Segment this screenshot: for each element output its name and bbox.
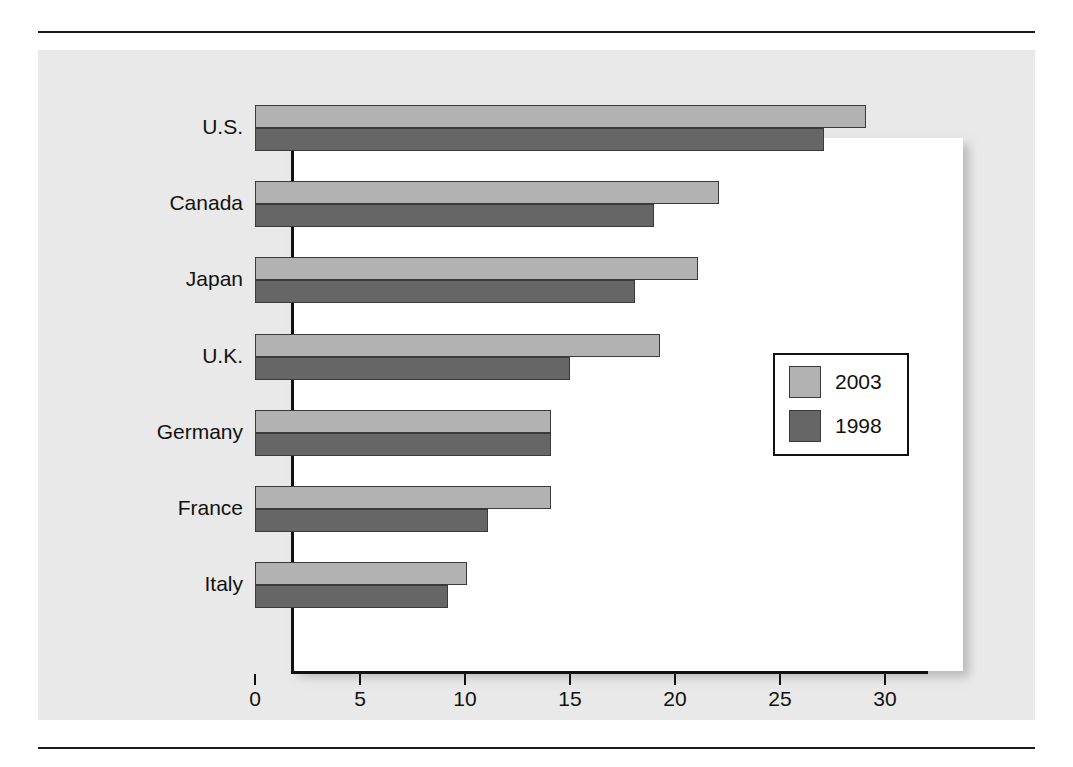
legend-swatch-1998 (789, 410, 821, 442)
bar-france-2003 (255, 486, 551, 509)
legend-label-1998: 1998 (835, 414, 882, 438)
bar-germany-1998 (255, 433, 551, 456)
bar-u-s-1998 (255, 128, 824, 151)
bar-canada-1998 (255, 204, 654, 227)
bar-japan-1998 (255, 280, 635, 303)
bar-france-1998 (255, 509, 488, 532)
bar-u-k-2003 (255, 334, 660, 357)
x-tick-label-5: 5 (340, 687, 380, 711)
bar-u-k-1998 (255, 357, 570, 380)
x-tick-5 (359, 674, 361, 685)
x-tick-25 (779, 674, 781, 685)
category-label-u-s: U.S. (43, 115, 243, 139)
category-label-italy: Italy (43, 572, 243, 596)
x-tick-30 (884, 674, 886, 685)
bar-germany-2003 (255, 410, 551, 433)
bar-italy-1998 (255, 585, 448, 608)
category-label-japan: Japan (43, 267, 243, 291)
x-tick-label-10: 10 (445, 687, 485, 711)
figure-container: 051015202530 U.S.CanadaJapanU.K.GermanyF… (0, 0, 1073, 767)
category-label-germany: Germany (43, 420, 243, 444)
category-label-u-k: U.K. (43, 344, 243, 368)
x-tick-10 (464, 674, 466, 685)
bar-u-s-2003 (255, 105, 866, 128)
bar-canada-2003 (255, 181, 719, 204)
legend-label-2003: 2003 (835, 370, 882, 394)
x-tick-15 (569, 674, 571, 685)
x-tick-label-30: 30 (865, 687, 905, 711)
top-divider-rule (38, 31, 1035, 33)
x-tick-label-0: 0 (235, 687, 275, 711)
x-tick-label-20: 20 (655, 687, 695, 711)
legend-item-1998: 1998 (789, 410, 882, 442)
chart-legend: 2003 1998 (773, 353, 909, 456)
bottom-divider-rule (38, 747, 1035, 749)
x-tick-label-25: 25 (760, 687, 800, 711)
bar-japan-2003 (255, 257, 698, 280)
legend-item-2003: 2003 (789, 366, 882, 398)
category-label-france: France (43, 496, 243, 520)
x-tick-20 (674, 674, 676, 685)
bar-italy-2003 (255, 562, 467, 585)
x-tick-label-15: 15 (550, 687, 590, 711)
x-axis-line (291, 671, 928, 674)
chart-panel: 051015202530 U.S.CanadaJapanU.K.GermanyF… (38, 50, 1035, 720)
x-tick-0 (254, 674, 256, 685)
category-label-canada: Canada (43, 191, 243, 215)
legend-swatch-2003 (789, 366, 821, 398)
